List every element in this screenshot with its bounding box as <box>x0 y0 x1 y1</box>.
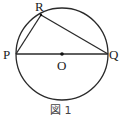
label-q: Q <box>109 47 119 62</box>
figure-caption: 図 1 <box>50 104 72 117</box>
center-point <box>60 52 64 56</box>
label-o: O <box>57 58 66 73</box>
point-r-dot <box>40 14 42 16</box>
label-p: P <box>3 47 10 62</box>
label-r: R <box>35 0 44 14</box>
geometry-figure: R P Q O 図 1 <box>0 0 125 119</box>
chord-rq <box>41 15 108 54</box>
